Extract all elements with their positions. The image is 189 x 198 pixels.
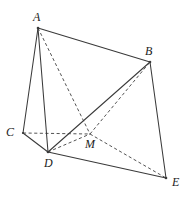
edge-D-M [48,134,90,152]
edge-A-B [38,28,150,62]
vertex-label-D: D [44,157,53,169]
edge-C-D [23,133,48,152]
vertex-dot-B [149,61,152,64]
edge-C-M [23,133,90,134]
vertex-label-E: E [172,176,179,188]
edge-D-B [48,62,150,152]
vertex-label-M: M [85,138,95,150]
edge-D-E [48,152,166,178]
edge-A-M [38,28,90,134]
edge-M-E [90,134,166,178]
vertex-label-A: A [33,11,40,23]
edge-B-E [150,62,166,178]
vertex-label-B: B [145,45,152,57]
geometry-figure-canvas [0,0,189,198]
vertex-dot-D [47,151,50,154]
vertex-dot-C [22,132,24,134]
edge-A-C [23,28,38,133]
vertex-label-C: C [6,126,14,138]
vertex-dot-E [165,177,168,180]
geometry-figure: A B C D M E [0,0,189,198]
edge-A-D [38,28,48,152]
vertex-dot-A [37,27,40,30]
edge-M-B [90,62,150,134]
